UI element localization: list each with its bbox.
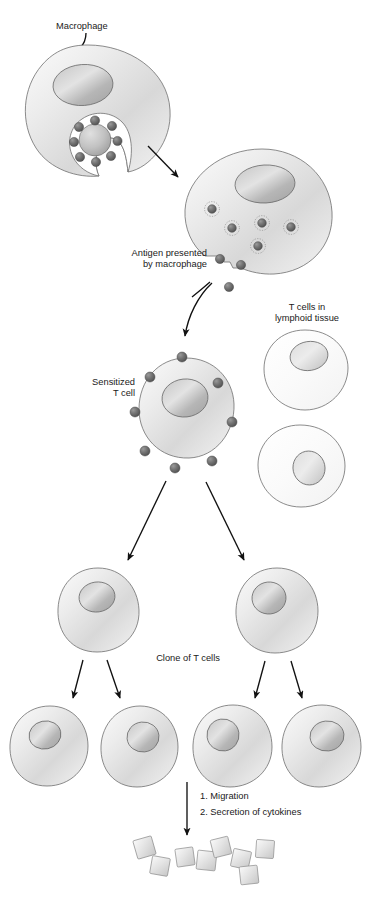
clone-gen2-cell-1 [10, 706, 88, 786]
arrow-gen1left-to-gen2b [107, 660, 120, 698]
arrow-sensitized-to-clone-left [128, 481, 166, 560]
t-cell-receptor [145, 372, 155, 382]
antigen-sphere [107, 121, 116, 130]
stage-sensitized-t-cell [130, 352, 237, 473]
label-clone-of-t-cells: Clone of T cells [156, 653, 220, 663]
clone-gen2-cell-2 [101, 706, 178, 787]
stage-macrophage-phagocytosis [25, 45, 170, 176]
t-cell-receptor [213, 378, 223, 388]
t-cell-receptor [170, 463, 180, 473]
surface-antigen [215, 254, 224, 263]
antigen-sphere [74, 122, 83, 131]
clone-gen1-right [236, 568, 318, 653]
clone-gen2-cell-3 [193, 705, 272, 787]
diagram-canvas: Macrophage [0, 0, 369, 898]
label-t-cells-lymphoid-line2: lymphoid tissue [275, 313, 339, 323]
label-sensitized-line1: Sensitized [92, 377, 135, 387]
label-step-secretion: 2. Secretion of cytokines [200, 807, 302, 817]
t-cell-lymphoid-lower [258, 425, 345, 507]
clone-gen2-cell-4 [282, 705, 361, 787]
cell-mediated-immunity-diagram: Macrophage [0, 0, 369, 898]
label-antigen-presented-line1: Antigen presented [132, 248, 207, 258]
antigen-sphere [69, 137, 78, 146]
cytokine-particle [239, 865, 259, 885]
antigen-sphere [106, 151, 115, 160]
arrow-gen1right-to-gen2c [255, 661, 265, 698]
label-t-cells-lymphoid-line1: T cells in [289, 302, 326, 312]
arrow-sensitized-to-clone-right [206, 482, 244, 560]
antigen-sphere [91, 157, 100, 166]
t-cell-receptor [140, 446, 150, 456]
label-antigen-presented-line2: by macrophage [143, 259, 207, 269]
antigen-sphere [90, 116, 99, 125]
antigen-sphere [75, 152, 84, 161]
released-antigen [224, 282, 233, 291]
t-cell-receptor [130, 407, 140, 417]
label-step-migration: 1. Migration [200, 791, 249, 801]
cytokine-particle [255, 839, 274, 858]
cytokine-particle [175, 847, 195, 867]
antigen-sphere [113, 136, 122, 145]
surface-antigen [236, 260, 245, 269]
label-sensitized-line2: T cell [113, 388, 135, 398]
cytokine-particle [210, 836, 232, 858]
label-macrophage: Macrophage [56, 21, 108, 31]
arrow-gen1right-to-gen2d [291, 661, 302, 698]
t-cell-lymphoid-upper [264, 330, 348, 410]
t-cell-receptor [227, 417, 237, 427]
stage-antigen-presenting-macrophage [185, 149, 332, 292]
cytokine-particle [150, 856, 171, 877]
t-cell-receptor [207, 456, 217, 466]
clone-gen1-left [58, 568, 139, 652]
antigen-mass [79, 124, 111, 156]
arrow-phagocytosis-to-presentation [148, 146, 178, 177]
cytokine-group [133, 836, 275, 885]
t-cell-receptor [177, 352, 187, 362]
arrow-gen1left-to-gen2a [73, 660, 83, 698]
macrophage-cell-body [25, 45, 170, 176]
